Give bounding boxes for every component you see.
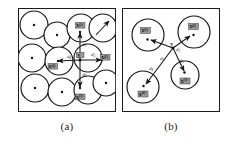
panel-b-graphic: x(1) x(2) x(3) x(4) y d1 xyxy=(122,8,220,112)
circle xyxy=(132,19,164,51)
panel-a-caption: (a) xyxy=(18,120,116,132)
circle xyxy=(171,61,199,89)
neighbor-dot xyxy=(192,34,194,36)
circle xyxy=(74,44,102,72)
circle-center-dot xyxy=(56,34,58,36)
circle-center-dot xyxy=(61,91,63,93)
panel-a: x(1) x(2) x(3) x(4) y d1 xyxy=(18,8,116,112)
distance-label-1: d1 xyxy=(160,56,165,62)
neighbor-dot xyxy=(57,60,59,62)
panel-b: x(1) x(2) x(3) x(4) y d1 xyxy=(122,8,220,112)
neighbor-dot xyxy=(146,38,148,40)
center-node-dot xyxy=(172,47,175,50)
neighbor-dot xyxy=(79,87,81,89)
neighbor-dot xyxy=(142,85,144,87)
distance-label-2: d2 xyxy=(176,47,181,53)
figure-panels: x(1) x(2) x(3) x(4) y d1 xyxy=(0,0,234,147)
panel-b-caption: (b) xyxy=(122,120,220,132)
center-node-label: y xyxy=(78,52,81,58)
figure-root: x(1) x(2) x(3) x(4) y d1 xyxy=(0,0,234,147)
neighbor-dot xyxy=(183,71,185,73)
neighbor-dot xyxy=(79,31,81,33)
circle-center-dot xyxy=(105,82,107,84)
circle-center-dot xyxy=(31,57,33,59)
panel-a-graphic: x(1) x(2) x(3) x(4) y d1 xyxy=(18,8,116,112)
distance-label-4: d4 xyxy=(149,66,154,72)
circle xyxy=(178,16,210,48)
circle-center-dot xyxy=(34,87,36,89)
center-node-label: y xyxy=(170,41,173,47)
center-node-dot xyxy=(79,59,82,62)
circle-center-dot xyxy=(33,24,35,26)
